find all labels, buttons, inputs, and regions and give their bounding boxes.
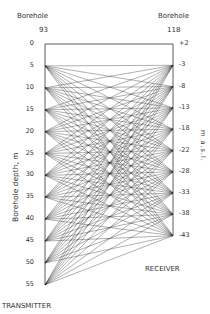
ray-path <box>45 108 173 154</box>
ray-path <box>45 193 173 241</box>
ray-path <box>45 87 173 154</box>
ray-path <box>45 65 173 88</box>
ray-path <box>45 197 173 235</box>
ray-path <box>45 88 173 129</box>
ray-path <box>45 214 173 285</box>
ray-path <box>45 175 173 214</box>
ray-path <box>45 129 173 241</box>
ray-path <box>45 151 173 176</box>
ray-path <box>45 66 173 87</box>
transmitter-label: TRANSMITTER <box>2 302 51 310</box>
ray-path <box>45 108 173 175</box>
ray-path <box>45 88 173 172</box>
ray-path <box>45 151 173 220</box>
ray-path <box>45 172 173 241</box>
ray-path <box>45 87 173 285</box>
ray-path <box>45 108 173 219</box>
ray-path <box>45 65 173 66</box>
ray-path <box>45 87 173 132</box>
ray-path <box>45 88 173 108</box>
ray-path <box>45 110 173 130</box>
receiver-label: RECEIVER <box>145 265 180 273</box>
ray-path <box>45 193 173 263</box>
ray-path <box>45 132 173 215</box>
ray-path <box>45 132 173 236</box>
ray-path <box>45 129 173 153</box>
ray-path <box>45 110 173 151</box>
